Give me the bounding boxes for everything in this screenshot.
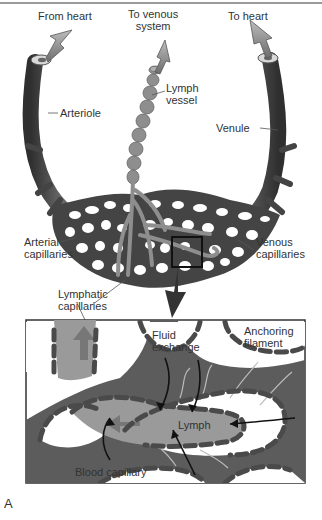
label-to-venous-system: To venous system <box>128 8 178 32</box>
lymph-vessel <box>127 66 161 184</box>
label-venule: Venule <box>216 122 250 134</box>
label-arterial-capillaries: Arterial capillaries <box>24 236 73 260</box>
label-from-heart: From heart <box>38 10 92 22</box>
from-heart-arrow <box>46 30 72 62</box>
label-fluid-exchange: Fluid exchange <box>152 329 200 353</box>
label-anchoring-filament: Anchoring filament <box>244 325 294 349</box>
label-lymph-vessel: Lymph vessel <box>166 82 199 106</box>
figure-letter: A <box>4 496 13 511</box>
to-venous-arrow <box>155 40 170 74</box>
label-blood-capillary: Blood capillary <box>75 466 147 478</box>
label-to-heart: To heart <box>228 10 268 22</box>
label-venous-capillaries: Venous capillaries <box>256 236 305 260</box>
label-arteriole: Arteriole <box>60 107 101 119</box>
label-lymph: Lymph <box>178 419 211 431</box>
lymphatic-diagram <box>0 0 322 520</box>
label-lymphatic-capillaries: Lymphatic capillaries <box>58 288 108 312</box>
capillary-bed <box>52 180 280 288</box>
lymphatic-vessel-section <box>54 320 96 380</box>
to-heart-arrow <box>250 20 272 58</box>
